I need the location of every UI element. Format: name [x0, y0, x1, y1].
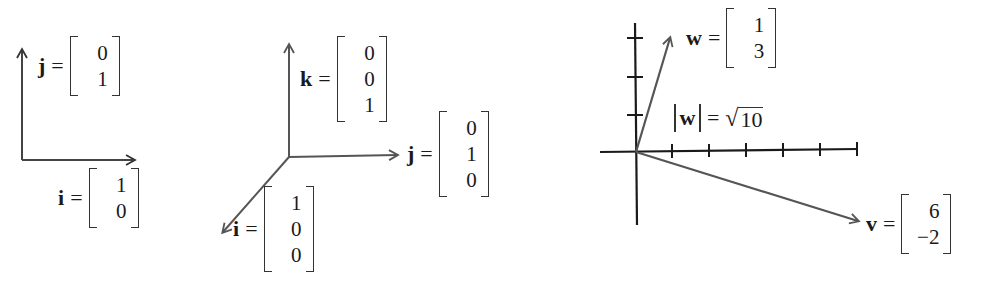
matrix-entry: 0 — [276, 242, 302, 268]
matrix-entry: 0 — [101, 198, 127, 224]
vector-name: w — [686, 27, 702, 49]
equals-sign: = — [420, 143, 432, 165]
w-vector-label: w = 1 3 — [686, 8, 776, 68]
i-vector-label-3d: i = 1 0 0 — [233, 186, 314, 272]
vector-name: j — [38, 55, 45, 77]
column-matrix: 0 0 1 — [337, 36, 387, 122]
j-vector-label: j = 0 1 — [38, 36, 120, 96]
column-matrix: 1 0 — [89, 168, 139, 228]
equals-sign: = — [708, 27, 720, 49]
diagram-canvas — [0, 0, 985, 284]
matrix-entry: 3 — [738, 38, 764, 64]
matrix-entry: 1 — [276, 190, 302, 216]
j-vector-label-3d: j = 0 1 0 — [407, 111, 489, 197]
matrix-entry: 0 — [451, 115, 477, 141]
column-matrix: 0 1 0 — [439, 111, 489, 197]
matrix-entry: 1 — [82, 66, 108, 92]
matrix-entry: −2 — [913, 224, 939, 250]
matrix-entry: 0 — [349, 40, 375, 66]
y-axis — [635, 23, 637, 225]
equals-sign: = — [883, 213, 895, 235]
norm-bar-right — [699, 104, 701, 132]
column-matrix: 1 3 — [726, 8, 776, 68]
vector-name: i — [233, 218, 239, 240]
w-vector-arrow — [636, 38, 670, 152]
i-vector-label: i = 1 0 — [58, 168, 139, 228]
v-vector-label: v = 6 −2 — [866, 194, 951, 254]
vector-name: k — [300, 68, 312, 90]
square-root: √ 10 — [725, 105, 763, 132]
matrix-entry: 1 — [349, 92, 375, 118]
column-matrix: 0 1 — [70, 36, 120, 96]
matrix-entry: 0 — [349, 66, 375, 92]
column-matrix: 1 0 0 — [264, 186, 314, 272]
vector-name: v — [866, 213, 877, 235]
matrix-entry: 6 — [913, 198, 939, 224]
vector-name: i — [58, 187, 64, 209]
equals-sign: = — [51, 55, 63, 77]
equals-sign: = — [707, 105, 719, 131]
norm-bar-left — [674, 104, 676, 132]
w-norm-equation: w = √ 10 — [670, 104, 763, 132]
radicand: 10 — [738, 107, 763, 131]
equals-sign: = — [70, 187, 82, 209]
matrix-entry: 1 — [738, 12, 764, 38]
matrix-entry: 0 — [451, 167, 477, 193]
norm-variable: w — [680, 105, 696, 131]
matrix-entry: 0 — [82, 40, 108, 66]
column-matrix: 6 −2 — [901, 194, 951, 254]
matrix-entry: 1 — [451, 141, 477, 167]
sqrt-symbol: √ — [725, 105, 738, 132]
j-basis-arrow-3d — [289, 155, 397, 157]
matrix-entry: 0 — [276, 216, 302, 242]
k-vector-label-3d: k = 0 0 1 — [300, 36, 387, 122]
matrix-entry: 1 — [101, 172, 127, 198]
vector-name: j — [407, 143, 414, 165]
equals-sign: = — [318, 68, 330, 90]
v-vector-arrow — [636, 152, 858, 221]
equals-sign: = — [245, 218, 257, 240]
